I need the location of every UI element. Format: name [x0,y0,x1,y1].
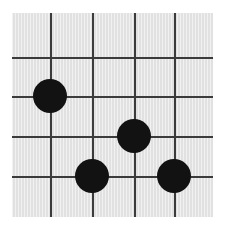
grid-line-vertical-1 [50,13,52,217]
stone-4[interactable] [157,159,191,193]
board-surface[interactable] [12,13,213,217]
grid-line-horizontal-3 [12,136,213,138]
grid-line-horizontal-1 [12,57,213,59]
stone-3[interactable] [75,159,109,193]
grid-line-vertical-3 [134,13,136,217]
grid-board-figure [0,0,225,229]
stone-2[interactable] [117,119,151,153]
stone-1[interactable] [33,79,67,113]
